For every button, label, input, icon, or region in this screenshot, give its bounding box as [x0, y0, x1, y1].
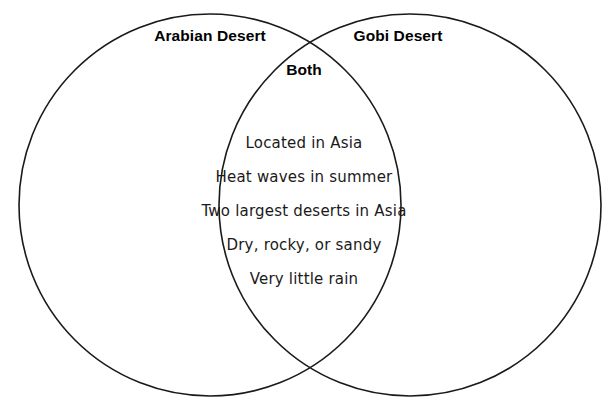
venn-diagram-canvas: Arabian Desert Gobi Desert Both Located …: [0, 0, 608, 408]
list-item: Two largest deserts in Asia: [0, 194, 608, 228]
list-item: Heat waves in summer: [0, 160, 608, 194]
list-item: Dry, rocky, or sandy: [0, 228, 608, 262]
list-item: Located in Asia: [0, 126, 608, 160]
list-item: Very little rain: [0, 262, 608, 296]
intersection-item-list: Located in Asia Heat waves in summer Two…: [0, 126, 608, 296]
right-set-title: Gobi Desert: [188, 27, 608, 45]
intersection-title: Both: [0, 61, 608, 79]
venn-label-layer: Arabian Desert Gobi Desert Both Located …: [0, 0, 608, 408]
